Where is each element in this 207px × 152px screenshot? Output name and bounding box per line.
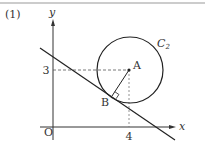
origin-label: O [44, 126, 53, 139]
y-axis-arrow-icon [51, 19, 55, 26]
problem-number: (1) [5, 8, 21, 21]
center-label: A [132, 59, 142, 72]
x-axis-label: x [179, 120, 186, 133]
x-tick-4: 4 [126, 130, 133, 143]
y-tick-3: 3 [43, 64, 50, 77]
y-axis-label: y [48, 6, 56, 19]
radius-segment-ab [112, 70, 129, 96]
circle-label: C2 [157, 37, 170, 51]
coordinate-diagram: (1) y x O 3 4 C2 A B [0, 0, 207, 152]
tangent-point-label: B [101, 96, 109, 109]
right-angle-mark [115, 92, 119, 99]
tangent-line [40, 48, 175, 140]
x-axis-arrow-icon [169, 125, 176, 129]
center-point-a [127, 68, 130, 71]
